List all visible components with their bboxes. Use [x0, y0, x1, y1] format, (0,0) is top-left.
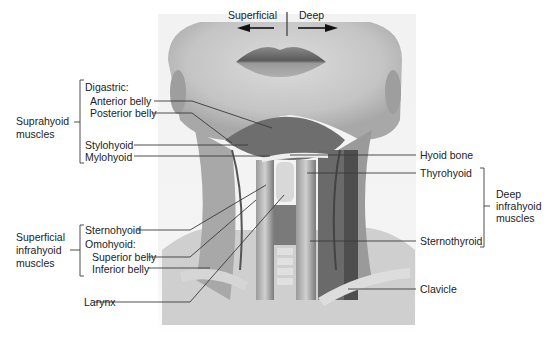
inferior-belly-label: Inferior belly: [92, 263, 149, 275]
stylohyoid-label: Stylohyoid: [85, 139, 133, 151]
sternothyroid-muscle: [296, 160, 316, 300]
sternothyroid-label: Sternothyroid: [420, 235, 482, 247]
sternohyoid-label: Sternohyoid: [85, 224, 141, 236]
right-ear: [385, 70, 401, 114]
deep-infrahyoid-group-label-3: muscles: [496, 212, 535, 224]
suprahyoid-bracket: [74, 80, 84, 163]
thyroid-gland: [274, 205, 296, 245]
digastric-label: Digastric:: [85, 81, 129, 93]
superficial-infrahyoid-bracket: [70, 225, 84, 276]
deep-infrahyoid-group-label-2: infrahyoid: [496, 200, 542, 212]
thyrohyoid-label: Thyrohyoid: [420, 167, 472, 179]
deep-muscle-right-2: [344, 150, 358, 300]
suprahyoid-group-label-2: muscles: [16, 128, 55, 140]
mylohyoid-label: Mylohyoid: [85, 151, 132, 163]
anterior-belly-label: Anterior belly: [90, 95, 151, 107]
posterior-belly-label: Posterior belly: [90, 107, 157, 119]
left-ear: [170, 70, 186, 114]
superficial-infrahyoid-group-label-3: muscles: [16, 257, 55, 269]
omohyoid-label: Omohyoid:: [85, 238, 136, 250]
superficial-infrahyoid-group-label-1: Superficial: [16, 231, 65, 243]
sternohyoid-muscle: [256, 160, 274, 300]
hyoid-bone-label: Hyoid bone: [420, 149, 473, 161]
superior-belly-label: Superior belly: [92, 251, 156, 263]
superficial-infrahyoid-group-label-2: infrahyoid: [16, 244, 62, 256]
larynx: [276, 162, 294, 202]
deep-direction-label: Deep: [299, 9, 324, 21]
neck-anatomy-illustration: [0, 0, 558, 345]
suprahyoid-group-label-1: Suprahyoid: [16, 115, 69, 127]
deep-infrahyoid-group-label-1: Deep: [496, 188, 521, 200]
clavicle-label: Clavicle: [420, 283, 457, 295]
deep-muscle-right: [318, 150, 344, 300]
larynx-label: Larynx: [84, 296, 116, 308]
superficial-direction-label: Superficial: [228, 9, 277, 21]
